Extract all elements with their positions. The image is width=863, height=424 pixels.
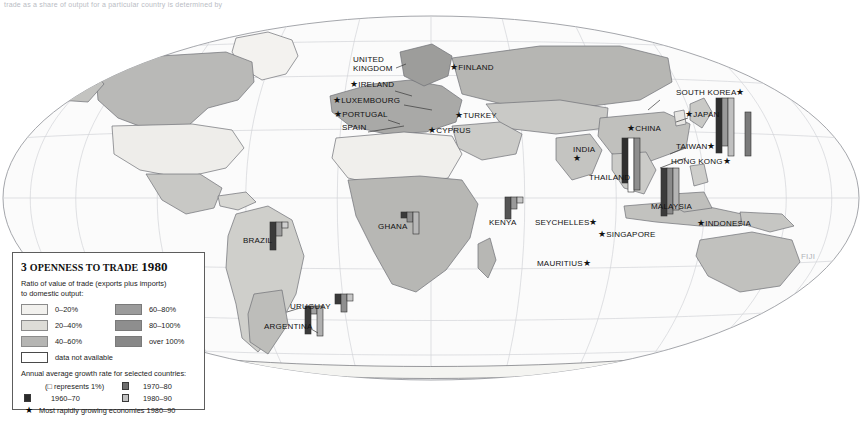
star-icon: ★: [455, 110, 463, 120]
growth-bar-0: [401, 212, 407, 218]
growth-bar-2: [282, 222, 288, 228]
legend-swatch-4: [21, 336, 48, 347]
legend-star-row: ★ Most rapidly growing economies 1980–90: [21, 405, 197, 415]
star-icon: ★: [334, 109, 342, 119]
legend-growth-label-0: (□ represents 1%): [45, 382, 117, 391]
star-icon: ★: [723, 156, 731, 166]
legend-growth-bar-2: [24, 394, 31, 402]
star-icon: ★: [333, 95, 341, 105]
growth-bar-1: [407, 212, 413, 222]
star-icon: ★: [627, 123, 635, 133]
map-label-china: ★CHINA: [627, 124, 661, 133]
legend-star-note: Most rapidly growing economies 1980–90: [39, 406, 175, 415]
legend-swatch-label-2: 20–40%: [55, 321, 111, 330]
map-label-portugal: ★PORTUGAL: [334, 110, 388, 119]
growth-bar-1: [722, 98, 728, 146]
legend-growth-bar-1: [122, 382, 129, 390]
map-label-seychelles: SEYCHELLES★: [535, 218, 598, 227]
map-label-luxembourg: ★LUXEMBOURG: [333, 96, 400, 105]
legend-swatch-label-4: 40–60%: [55, 337, 111, 346]
legend-growth-swatch-cell-2: [21, 394, 43, 402]
star-icon: ★: [736, 87, 744, 97]
map-label-thailand: THAILAND: [589, 173, 630, 182]
legend-growth-bar-3: [122, 394, 129, 402]
legend-title-year: 1980: [141, 259, 167, 274]
growth-bar-1: [276, 222, 282, 236]
star-icon: ★: [707, 141, 715, 151]
bar-group-taiwan-bars: [745, 112, 751, 156]
map-label-ghana: GHANA: [378, 222, 407, 231]
legend-swatch-1: [115, 304, 142, 315]
map-label-finland: ★FINLAND: [450, 63, 494, 72]
map-label-south-korea: SOUTH KOREA★: [676, 88, 745, 97]
legend-growth-grid: (□ represents 1%)1970–801960–701980–90: [21, 380, 197, 404]
map-legend: 3 OPENNESS TO TRADE 1980 Ratio of value …: [12, 252, 205, 410]
map-label-uruguay: URUGUAY: [290, 302, 331, 311]
star-icon: ★: [697, 218, 705, 228]
map-label-brazil: BRAZIL: [243, 236, 272, 245]
growth-bar-1: [511, 197, 517, 209]
growth-bar-1: [341, 294, 347, 312]
growth-bar-0: [505, 197, 511, 219]
star-icon: ★: [25, 405, 33, 415]
growth-bar-2: [634, 138, 640, 190]
russia: [452, 46, 672, 108]
star-icon: ★: [589, 217, 597, 227]
legend-growth-heading: Annual average growth rate for selected …: [21, 369, 197, 378]
map-label-kenya: KENYA: [489, 218, 517, 227]
legend-swatch-6: [21, 352, 48, 363]
growth-bar-2: [728, 98, 734, 156]
map-label-fiji: FIJI: [801, 252, 815, 261]
legend-swatch-label-0: 0–20%: [55, 305, 111, 314]
legend-growth-swatch-cell-1: [119, 382, 135, 390]
map-label-spain: SPAIN: [342, 123, 366, 132]
star-icon: ★: [598, 229, 606, 239]
map-page: trade as a share of output for a particu…: [0, 0, 863, 424]
legend-growth-swatch-cell-3: [119, 394, 135, 402]
growth-bar-0: [716, 98, 722, 153]
legend-growth-label-3: 1980–90: [137, 394, 197, 403]
legend-growth-label-2: 1960–70: [45, 394, 117, 403]
star-icon: ★: [685, 109, 693, 119]
legend-swatch-grid: 0–20%60–80%20–40%80–100%40–60%over 100%d…: [21, 302, 197, 365]
map-label-singapore: ★SINGAPORE: [598, 230, 656, 239]
growth-bar-2: [517, 197, 523, 203]
star-icon: ★: [350, 79, 358, 89]
star-icon: ★: [573, 153, 581, 163]
star-icon: ★: [428, 125, 436, 135]
star-icon: ★: [583, 258, 591, 268]
map-label-taiwan: TAIWAN★: [676, 142, 716, 151]
map-label-united-kingdom: UNITEDKINGDOM: [353, 55, 393, 73]
legend-swatch-2: [21, 320, 48, 331]
map-label-malaysia: MALAYSIA: [651, 202, 692, 211]
growth-bar-2: [347, 294, 353, 301]
legend-swatch-label-5: over 100%: [149, 337, 205, 346]
new-zealand: [810, 280, 830, 306]
map-label-ireland: ★IRELAND: [350, 80, 394, 89]
growth-bar-0: [745, 112, 751, 156]
map-label-turkey: ★TURKEY: [455, 111, 497, 120]
legend-swatch-label-3: 80–100%: [149, 321, 205, 330]
map-label-mauritius: MAURITIUS★: [537, 259, 591, 268]
map-label-india: INDIA★: [573, 145, 595, 163]
legend-growth-label-1: 1970–80: [137, 382, 197, 391]
growth-bar-1: [628, 138, 634, 192]
map-label-hong-kong: HONG KONG★: [671, 157, 731, 166]
map-label-cyprus: ★CYPRUS: [428, 126, 471, 135]
legend-subtitle-1: Ratio of value of trade (exports plus im…: [21, 279, 197, 289]
map-label-japan: ★JAPAN: [685, 110, 719, 119]
star-icon: ★: [450, 62, 458, 72]
legend-swatch-3: [115, 320, 142, 331]
legend-swatch-label-6: data not available: [55, 353, 111, 362]
legend-title-main: OPENNESS TO TRADE: [30, 262, 138, 273]
legend-subtitle-2: to domestic output:: [21, 289, 197, 299]
growth-bar-0: [335, 294, 341, 304]
legend-swatch-label-1: 60–80%: [149, 305, 205, 314]
legend-number: 3: [21, 261, 27, 273]
map-label-argentina: ARGENTINA: [264, 322, 312, 331]
legend-swatch-5: [115, 336, 142, 347]
map-label-indonesia: ★INDONESIA: [697, 219, 751, 228]
growth-bar-2: [413, 212, 419, 234]
legend-swatch-0: [21, 304, 48, 315]
legend-title: 3 OPENNESS TO TRADE 1980: [21, 259, 197, 275]
